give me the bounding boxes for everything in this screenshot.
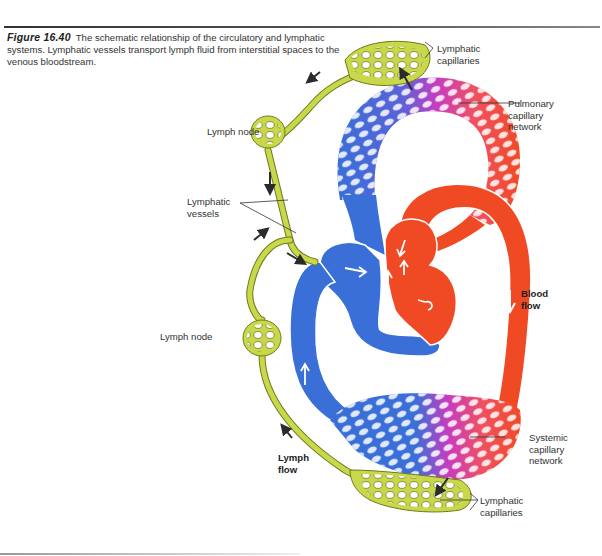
label-line: Lymph [278,452,309,464]
systemic-capillary-network [330,393,521,479]
label-line: network [529,455,568,467]
label-line: Blood [521,288,548,300]
label-line: Lymphatic [187,196,230,208]
label-line: capillary [529,444,568,456]
label-line: capillary [508,110,554,122]
bottom-rule [0,553,300,555]
label-line: vessels [187,208,230,220]
lymphatic-capillaries-top [345,41,430,85]
lymph-node-lower [243,320,281,356]
label-line: network [508,121,554,133]
label-line: flow [521,300,548,312]
label-lymph-node-upper: Lymph node [207,126,259,138]
label-line: capillaries [480,507,523,519]
label-line: Systemic [529,432,568,444]
heart [320,219,456,356]
label-lymphatic-capillaries-bottom: Lymphatic capillaries [480,495,523,518]
label-line: flow [278,464,309,476]
label-line: Lymphatic [480,495,523,507]
label-blood-flow: Blood flow [521,288,548,311]
label-line: capillaries [437,55,480,67]
label-pulmonary-capillary-network: Pulmonary capillary network [508,98,554,133]
label-systemic-capillary-network: Systemic capillary network [529,432,568,467]
label-lymphatic-vessels: Lymphatic vessels [187,196,230,219]
label-lymph-node-lower: Lymph node [160,331,212,343]
label-line: Pulmonary [508,98,554,110]
label-lymphatic-capillaries-top: Lymphatic capillaries [437,43,480,66]
label-lymph-flow: Lymph flow [278,452,309,475]
label-line: Lymphatic [437,43,480,55]
